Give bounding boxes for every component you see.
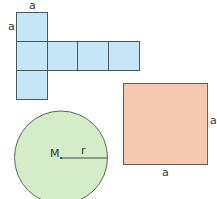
net-square-middle-3 [78, 42, 109, 71]
net-label-top: a [29, 0, 36, 12]
square-shape [124, 84, 208, 165]
square-label-right: a [210, 114, 217, 127]
center-label: M [50, 147, 60, 160]
center-point [60, 157, 62, 159]
net-square-top [17, 13, 48, 42]
circle-shape [15, 111, 108, 199]
cube-net: a a [8, 0, 140, 100]
square-figure: a a [124, 84, 217, 180]
net-square-middle-1 [17, 42, 48, 71]
net-label-left: a [8, 20, 15, 33]
net-square-bottom [17, 71, 48, 100]
net-square-middle-2 [48, 42, 78, 71]
geometry-figure: a a a a M r [0, 0, 217, 199]
square-label-bottom: a [162, 166, 169, 179]
circle-figure: M r [15, 111, 108, 199]
radius-label: r [81, 144, 86, 157]
net-square-middle-4 [109, 42, 140, 71]
